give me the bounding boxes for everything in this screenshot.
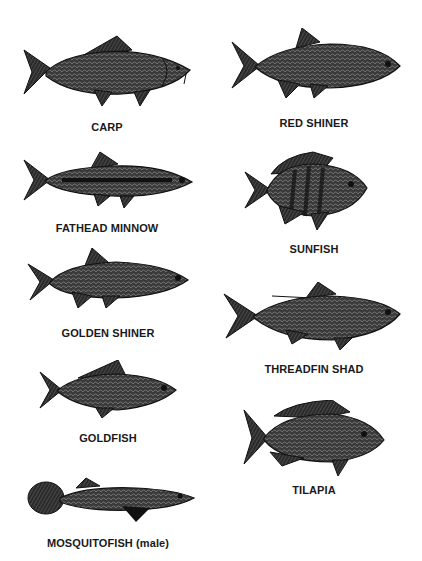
fish-tilapia xyxy=(242,400,386,478)
threadfin-shad-illustration xyxy=(222,282,402,350)
fish-red-shiner xyxy=(230,28,402,100)
fathead-minnow-illustration xyxy=(22,150,194,210)
fish-sunfish xyxy=(243,150,371,232)
fish-mosquitofish xyxy=(26,476,196,526)
mosquitofish-illustration xyxy=(26,476,196,526)
fish-fathead-minnow xyxy=(22,150,194,210)
fish-threadfin-shad xyxy=(222,282,402,350)
carp-illustration xyxy=(22,28,194,108)
goldfish-illustration xyxy=(38,360,180,420)
fish-goldfish xyxy=(38,360,180,420)
fish-golden-shiner xyxy=(26,248,191,310)
label-sunfish: SUNFISH xyxy=(290,243,339,255)
label-carp: CARP xyxy=(91,121,123,133)
label-fathead-minnow: FATHEAD MINNOW xyxy=(56,222,159,234)
sunfish-illustration xyxy=(243,150,371,232)
label-threadfin-shad: THREADFIN SHAD xyxy=(264,363,363,375)
label-goldfish: GOLDFISH xyxy=(79,432,137,444)
fish-carp xyxy=(22,28,194,108)
golden-shiner-illustration xyxy=(26,248,191,310)
label-mosquitofish: MOSQUITOFISH (male) xyxy=(47,537,169,549)
red-shiner-illustration xyxy=(230,28,402,100)
label-red-shiner: RED SHINER xyxy=(280,117,349,129)
tilapia-illustration xyxy=(242,400,386,478)
label-tilapia: TILAPIA xyxy=(292,484,335,496)
label-golden-shiner: GOLDEN SHINER xyxy=(62,327,155,339)
